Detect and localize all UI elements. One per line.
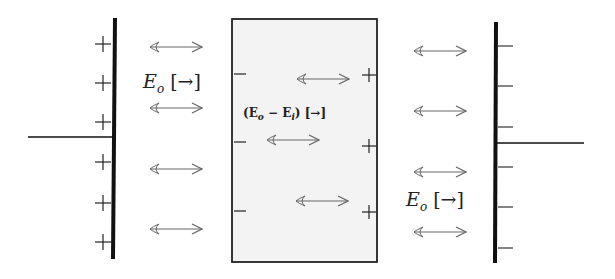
label-field-outside-right: Eo [→] [406, 188, 464, 214]
diagram-svg [0, 0, 615, 279]
label-field-outside-left: Eo [→] [143, 70, 201, 96]
diagram-canvas: Eo [→] (Eo − Ei) [→] Eo [→] [0, 0, 615, 279]
dielectric-slab [232, 19, 377, 262]
minus-charges-right [498, 46, 513, 248]
right-plate [495, 22, 584, 263]
left-plate [28, 18, 115, 259]
plus-charges-left [95, 36, 111, 250]
label-field-inside: (Eo − Ei) [→] [243, 106, 326, 122]
